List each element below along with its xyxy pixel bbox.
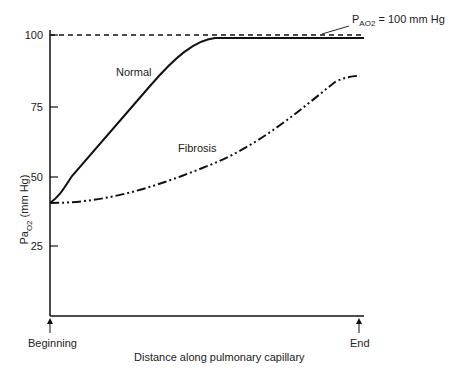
y-axis-label: PaO2 (mm Hg) [18, 170, 33, 250]
normal-label: Normal [116, 66, 151, 78]
fibrosis-label: Fibrosis [178, 142, 217, 154]
fibrosis-curve [50, 76, 360, 203]
reference-label: PAO2 = 100 mm Hg [352, 13, 445, 28]
normal-curve [50, 38, 364, 203]
beginning-arrow-icon [47, 318, 53, 324]
beginning-label: Beginning [28, 337, 77, 349]
chart-plot [0, 0, 457, 368]
x-axis-label: Distance along pulmonary capillary [134, 351, 305, 363]
ytick-100: 100 [17, 29, 43, 41]
chart: 100 75 50 25 PaO2 (mm Hg) Normal Fibrosi… [0, 0, 457, 368]
end-label: End [350, 337, 370, 349]
ytick-75: 75 [17, 101, 43, 113]
reference-leader [322, 26, 349, 34]
end-arrow-icon [356, 318, 362, 324]
